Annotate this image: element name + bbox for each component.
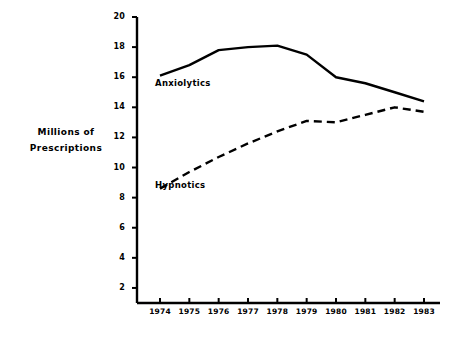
y-axis-tick-label: 14 xyxy=(107,102,125,111)
data-series-group xyxy=(160,46,424,189)
y-axis-tick-label: 10 xyxy=(107,163,125,172)
y-axis-tick-label: 12 xyxy=(107,132,125,141)
y-axis-tick-label: 2 xyxy=(107,283,125,292)
y-axis-title-line-2: Prescriptions xyxy=(14,140,118,156)
x-axis-tick-label: 1983 xyxy=(407,307,441,316)
y-axis-tick-label: 4 xyxy=(107,253,125,262)
series-line-hypnotics xyxy=(160,107,424,188)
series-label-anxiolytics: Anxiolytics xyxy=(155,78,211,88)
y-axis-title: Millions of Prescriptions xyxy=(14,124,118,156)
y-axis-tick-label: 16 xyxy=(107,72,125,81)
y-axis-tick-label: 18 xyxy=(107,42,125,51)
line-chart-plot xyxy=(0,0,452,339)
series-label-hypnotics: Hypnotics xyxy=(155,180,205,190)
y-axis-title-line-1: Millions of xyxy=(14,124,118,140)
series-line-anxiolytics xyxy=(160,46,424,102)
axes xyxy=(137,17,440,303)
chart-figure: Millions of Prescriptions 20181614121086… xyxy=(0,0,452,339)
y-axis-tick-label: 20 xyxy=(107,12,125,21)
y-axis-tick-label: 8 xyxy=(107,193,125,202)
y-axis-tick-label: 6 xyxy=(107,223,125,232)
